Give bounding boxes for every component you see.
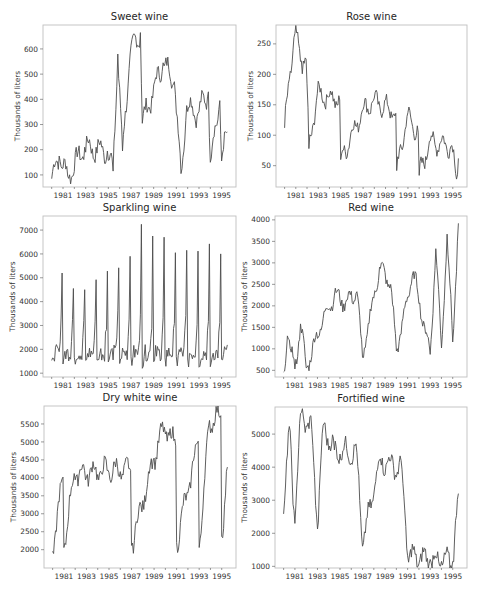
y-tick-label: 200 (257, 70, 271, 79)
x-tick-label: 1983 (76, 381, 95, 390)
y-tick-label: 300 (24, 120, 38, 129)
plot-frame (44, 406, 236, 568)
y-tick-label: 400 (24, 95, 38, 104)
line-series (53, 406, 228, 554)
x-tick-label: 1989 (376, 381, 395, 390)
x-tick-label: 1989 (376, 572, 395, 581)
y-tick-label: 500 (24, 70, 38, 79)
x-tick-label: 1981 (54, 191, 73, 200)
y-tick-label: 5000 (19, 273, 38, 282)
x-tick-label: 1991 (398, 572, 417, 581)
x-tick-label: 1985 (331, 381, 350, 390)
x-tick-label: 1983 (308, 381, 327, 390)
y-axis-label: Thousands of liters (240, 452, 249, 523)
y-tick-label: 4000 (251, 463, 270, 472)
y-axis-label: Thousands of liters (8, 261, 17, 332)
y-tick-label: 4000 (19, 297, 38, 306)
y-tick-label: 7000 (19, 226, 38, 235)
x-tick-label: 1981 (286, 191, 305, 200)
y-tick-label: 500 (256, 366, 270, 375)
x-tick-label: 1981 (286, 381, 305, 390)
subplot-rose-wine: Rose wine1981198319851987198919911993199… (246, 11, 468, 200)
x-tick-label: 1985 (99, 381, 118, 390)
y-tick-label: 1000 (251, 562, 270, 571)
y-tick-label: 2000 (251, 529, 270, 538)
y-tick-label: 1500 (251, 323, 270, 332)
y-tick-label: 50 (262, 161, 272, 170)
x-tick-label: 1991 (167, 191, 186, 200)
y-tick-label: 5000 (20, 438, 39, 447)
x-tick-label: 1993 (190, 381, 209, 390)
x-tick-label: 1991 (398, 381, 417, 390)
x-tick-label: 1985 (100, 572, 119, 581)
x-tick-label: 1993 (190, 191, 209, 200)
line-series (52, 33, 228, 184)
y-tick-label: 3000 (251, 258, 270, 267)
x-tick-label: 1993 (190, 572, 209, 581)
x-tick-label: 1991 (399, 191, 418, 200)
x-tick-label: 1993 (421, 381, 440, 390)
x-tick-label: 1987 (122, 381, 141, 390)
x-tick-label: 1995 (212, 381, 231, 390)
y-tick-label: 150 (257, 100, 271, 109)
x-tick-label: 1995 (212, 191, 231, 200)
wine-sales-figure: Sweet wine198119831985198719891991199319… (0, 0, 482, 596)
x-tick-label: 1993 (421, 572, 440, 581)
y-tick-label: 2000 (251, 301, 270, 310)
subplot-title: Fortified wine (337, 393, 405, 404)
x-tick-label: 1995 (443, 191, 462, 200)
y-tick-label: 200 (24, 145, 38, 154)
y-tick-label: 6000 (19, 250, 38, 259)
subplot-title: Rose wine (346, 11, 397, 22)
x-tick-label: 1983 (308, 572, 327, 581)
y-tick-label: 2000 (19, 345, 38, 354)
y-axis-label: Thousands of liters (9, 452, 18, 523)
line-series (52, 224, 228, 368)
y-tick-label: 100 (24, 171, 38, 180)
y-tick-label: 4000 (20, 473, 39, 482)
subplot-title: Sweet wine (111, 11, 168, 22)
y-tick-label: 3500 (251, 237, 270, 246)
y-tick-label: 100 (257, 131, 271, 140)
x-tick-label: 1985 (99, 191, 118, 200)
subplot-title: Sparkling wine (103, 202, 177, 213)
x-tick-label: 1987 (122, 572, 141, 581)
subplot-red-wine: Red wine19811983198519871989199119931995… (240, 202, 467, 390)
x-tick-label: 1989 (145, 572, 164, 581)
x-tick-label: 1989 (376, 191, 395, 200)
y-tick-label: 1000 (251, 344, 270, 353)
x-tick-label: 1983 (76, 191, 95, 200)
y-tick-label: 2000 (20, 545, 39, 554)
x-tick-label: 1987 (353, 572, 372, 581)
y-tick-label: 5500 (20, 420, 39, 429)
y-tick-label: 2500 (251, 280, 270, 289)
plot-frame (275, 216, 467, 377)
y-tick-label: 5000 (251, 430, 270, 439)
x-tick-label: 1995 (443, 381, 462, 390)
x-tick-label: 1987 (354, 191, 373, 200)
plot-frame (275, 407, 467, 568)
x-tick-label: 1989 (144, 191, 163, 200)
x-tick-label: 1995 (212, 572, 231, 581)
x-tick-label: 1981 (286, 572, 305, 581)
line-series (284, 409, 459, 568)
y-tick-label: 3000 (20, 509, 39, 518)
x-tick-label: 1981 (55, 572, 74, 581)
line-series (285, 26, 459, 180)
x-tick-label: 1983 (309, 191, 328, 200)
subplot-dry-white-wine: Dry white wine19811983198519871989199119… (9, 392, 236, 581)
y-tick-label: 4000 (251, 215, 270, 224)
x-tick-label: 1993 (421, 191, 440, 200)
subplot-fortified-wine: Fortified wine19811983198519871989199119… (240, 393, 467, 581)
y-axis-label: Thousands of liters (13, 71, 22, 142)
y-tick-label: 4500 (20, 455, 39, 464)
x-tick-label: 1995 (443, 572, 462, 581)
y-tick-label: 3000 (251, 496, 270, 505)
subplot-sparkling-wine: Sparkling wine19811983198519871989199119… (8, 202, 236, 390)
x-tick-label: 1989 (144, 381, 163, 390)
y-axis-label: Thousands of liters (240, 261, 249, 332)
x-tick-label: 1991 (167, 572, 186, 581)
y-axis-label: Thousands of liters (246, 71, 255, 142)
y-tick-label: 250 (257, 39, 271, 48)
y-tick-label: 3500 (20, 491, 39, 500)
